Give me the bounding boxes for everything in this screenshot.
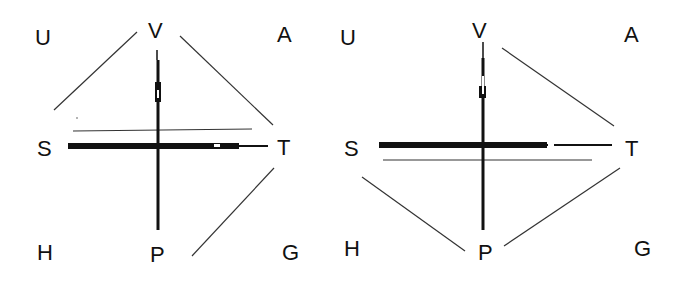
line-V-T — [180, 36, 273, 125]
right-diagram: U V A S T H P G — [340, 18, 651, 265]
line-S-T-parallel — [73, 129, 252, 131]
label-S: S — [344, 136, 359, 161]
label-P: P — [150, 242, 165, 267]
horizontal-axis — [68, 143, 239, 149]
label-V: V — [148, 18, 163, 43]
label-H: H — [344, 236, 360, 261]
line-S-P — [362, 177, 465, 251]
horizontal-axis — [379, 142, 547, 148]
vertical-axis-gap — [482, 76, 484, 94]
label-P: P — [478, 240, 493, 265]
label-A: A — [624, 22, 639, 47]
vertical-axis-gap — [157, 90, 159, 98]
label-H: H — [37, 240, 53, 265]
diagram-canvas: U V A S T H P G U V A S T H P G — [0, 0, 675, 281]
label-V: V — [472, 18, 487, 43]
label-G: G — [634, 236, 651, 261]
line-P-T — [504, 168, 620, 246]
dot-mark — [76, 117, 78, 119]
line-V-T — [502, 48, 614, 126]
label-U: U — [340, 25, 356, 50]
line-U-V — [54, 32, 137, 110]
label-T: T — [625, 136, 638, 161]
horizontal-axis-gap — [214, 144, 220, 147]
label-A: A — [277, 22, 292, 47]
line-T-P — [192, 168, 274, 256]
left-diagram: U V A S T H P G — [35, 18, 299, 267]
label-U: U — [35, 25, 51, 50]
label-S: S — [37, 136, 52, 161]
label-T: T — [277, 135, 290, 160]
horizontal-axis-gap — [548, 143, 554, 146]
label-G: G — [282, 240, 299, 265]
